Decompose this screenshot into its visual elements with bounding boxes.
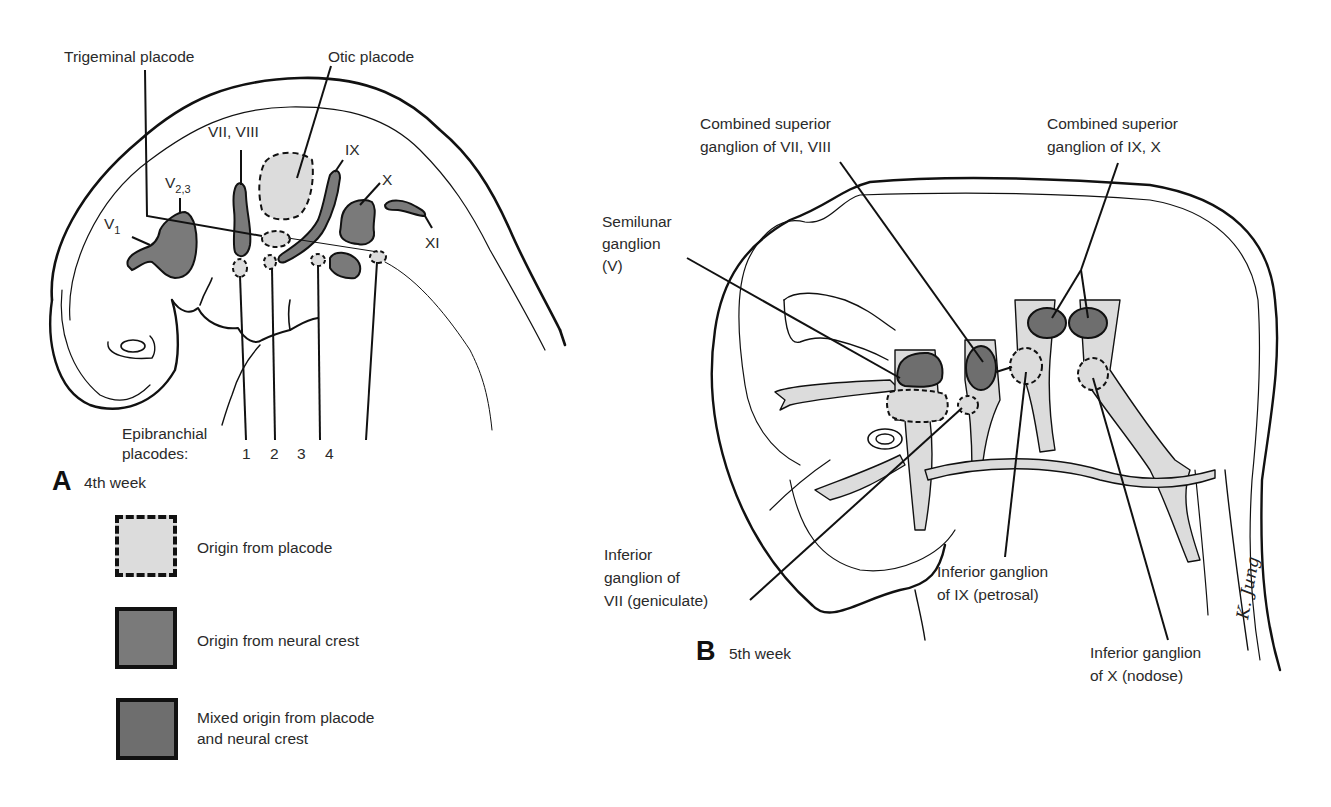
panel-b-caption: 5th week bbox=[729, 645, 791, 663]
label-xi: XI bbox=[425, 233, 440, 252]
inferior-ganglion-x bbox=[1078, 358, 1108, 390]
legend-swatch-placode bbox=[115, 515, 177, 577]
panel-a-caption: 4th week bbox=[84, 474, 146, 492]
label-ix: IX bbox=[345, 140, 360, 159]
ganglion-xi bbox=[385, 201, 425, 216]
superior-ganglion-ix bbox=[1028, 308, 1066, 338]
label-semilunar-line3: (V) bbox=[602, 256, 623, 275]
panel-b-letter: B bbox=[696, 638, 716, 665]
legend-label-neural-crest: Origin from neural crest bbox=[197, 630, 359, 651]
label-semilunar-line2: ganglion bbox=[602, 234, 661, 253]
label-v1-sub: 1 bbox=[114, 224, 120, 236]
label-inferior-vii-line1: Inferior bbox=[604, 545, 652, 564]
panel-a-letter: A bbox=[52, 468, 72, 495]
panel-a-embryo bbox=[50, 78, 565, 430]
label-inferior-x-line1: Inferior ganglion bbox=[1090, 643, 1201, 662]
label-v23: V2,3 bbox=[165, 173, 191, 194]
superior-ganglion-vii-viii bbox=[966, 346, 996, 390]
label-epi-1: 1 bbox=[242, 444, 251, 463]
label-combined-vii-viii-line1: Combined superior bbox=[700, 114, 831, 133]
label-semilunar-line1: Semilunar bbox=[602, 212, 672, 231]
legend-label-mixed-line1: Mixed origin from placode bbox=[197, 707, 374, 728]
panel-b-nerves bbox=[775, 300, 1215, 562]
label-inferior-vii-line2: ganglion of bbox=[604, 568, 680, 587]
epibranchial-placode-2 bbox=[264, 255, 276, 269]
epibranchial-placode-3 bbox=[311, 254, 325, 266]
label-trigeminal-placode: Trigeminal placode bbox=[64, 47, 194, 66]
label-inferior-vii-line3: VII (geniculate) bbox=[604, 591, 708, 610]
label-v23-main: V bbox=[165, 174, 175, 191]
label-epi-2: 2 bbox=[270, 444, 279, 463]
trigeminal-placode bbox=[262, 231, 290, 247]
label-combined-ix-x-line2: ganglion of IX, X bbox=[1047, 137, 1161, 156]
label-epi-4: 4 bbox=[325, 444, 334, 463]
label-combined-vii-viii-line2: ganglion of VII, VIII bbox=[700, 137, 831, 156]
label-x: X bbox=[382, 170, 392, 189]
label-inferior-ix-line1: Inferior ganglion bbox=[937, 562, 1048, 581]
label-epibranchial-line2: placodes: bbox=[122, 444, 188, 463]
label-epi-3: 3 bbox=[297, 444, 306, 463]
label-epibranchial-line1: Epibranchial bbox=[122, 424, 207, 443]
label-v1: V1 bbox=[104, 214, 120, 235]
semilunar-ganglion-crest bbox=[897, 353, 942, 387]
epibranchial-placode-4 bbox=[370, 251, 386, 263]
label-inferior-x-line2: of X (nodose) bbox=[1090, 666, 1183, 685]
epibranchial-placode-1 bbox=[233, 259, 247, 277]
label-vii-viii: VII, VIII bbox=[208, 122, 259, 141]
ganglion-x bbox=[340, 200, 375, 245]
panel-a-ganglia bbox=[127, 153, 425, 278]
label-combined-ix-x-line1: Combined superior bbox=[1047, 114, 1178, 133]
label-otic-placode: Otic placode bbox=[328, 47, 414, 66]
legend-swatch-mixed bbox=[116, 698, 178, 760]
legend-label-mixed-line2: and neural crest bbox=[197, 728, 308, 749]
inferior-ganglion-vii bbox=[958, 396, 978, 414]
ganglion-vii-viii bbox=[233, 183, 250, 256]
label-inferior-ix-line2: of IX (petrosal) bbox=[937, 585, 1039, 604]
label-v23-sub: 2,3 bbox=[175, 183, 190, 195]
legend-label-placode: Origin from placode bbox=[197, 537, 332, 558]
otic-placode bbox=[259, 153, 313, 220]
semilunar-ganglion-placode bbox=[887, 390, 948, 422]
label-v1-main: V bbox=[104, 215, 114, 232]
legend-swatch-neural-crest bbox=[115, 607, 177, 669]
